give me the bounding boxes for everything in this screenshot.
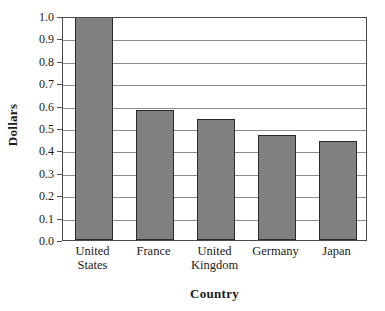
y-tick-label: 1.0 (39, 11, 54, 23)
y-axis-title: Dollars (0, 0, 26, 250)
y-axis-tick-labels: 1.00.90.80.70.60.50.40.30.20.10.0 (26, 0, 58, 311)
bar (75, 17, 113, 240)
x-axis-title: Country (62, 286, 367, 302)
x-tick-label-line1: United (197, 244, 231, 258)
y-tick-label: 0.9 (39, 33, 54, 45)
y-tick-label: 0.0 (39, 235, 54, 247)
x-tick-label: France (123, 244, 184, 258)
y-tick-label: 0.4 (39, 145, 54, 157)
x-tick-label-line1: France (136, 244, 170, 258)
y-tick-mark (57, 241, 62, 242)
y-tick-label: 0.5 (39, 123, 54, 135)
x-tick-label: UnitedKingdom (184, 244, 245, 272)
x-tick-label-line2: Kingdom (184, 258, 245, 272)
bar-series (63, 18, 366, 240)
x-axis-tick-labels: UnitedStatesFranceUnitedKingdomGermanyJa… (62, 244, 367, 284)
y-tick-label: 0.8 (39, 56, 54, 68)
y-axis-title-text: Dollars (5, 104, 21, 147)
y-tick-label: 0.6 (39, 101, 54, 113)
bar (197, 119, 235, 240)
y-tick-label: 0.3 (39, 168, 54, 180)
y-tick-label: 0.7 (39, 78, 54, 90)
x-tick-label: Japan (306, 244, 367, 258)
x-tick-label-line2: States (62, 258, 123, 272)
x-tick-label-line1: Germany (252, 244, 299, 258)
bar (136, 110, 174, 240)
x-tick-label-line1: United (75, 244, 109, 258)
bar (258, 135, 296, 240)
x-tick-label: UnitedStates (62, 244, 123, 272)
y-tick-label: 0.2 (39, 190, 54, 202)
x-tick-label-line1: Japan (322, 244, 350, 258)
bar (319, 141, 357, 240)
x-tick-label: Germany (245, 244, 306, 258)
y-tick-label: 0.1 (39, 213, 54, 225)
bar-chart: Dollars 1.00.90.80.70.60.50.40.30.20.10.… (0, 0, 385, 311)
plot-area (62, 17, 367, 241)
